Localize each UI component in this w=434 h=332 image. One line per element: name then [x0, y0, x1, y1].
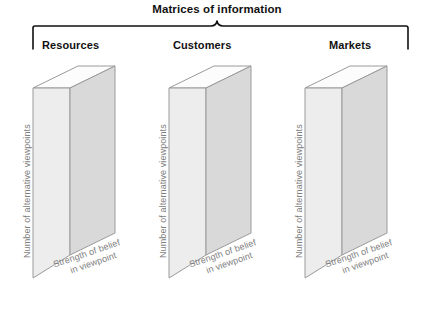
matrix-panel-resources: Number of alternative viewpoints Strengt… [14, 55, 154, 332]
column-header-resources: Resources [42, 39, 99, 51]
y-axis-label-resources: Number of alternative viewpoints [22, 124, 32, 258]
column-header-markets: Markets [329, 39, 371, 51]
matrix-panel-markets: Number of alternative viewpoints Strengt… [286, 55, 426, 332]
figure-title: Matrices of information [0, 3, 434, 15]
matrix-panel-customers: Number of alternative viewpoints Strengt… [150, 55, 290, 332]
column-header-customers: Customers [173, 39, 231, 51]
matrix-slab-3d-markets [286, 55, 426, 332]
y-axis-label-markets: Number of alternative viewpoints [294, 124, 304, 258]
figure-canvas: Matrices of information Resources Custom… [0, 0, 434, 332]
matrix-slab-3d-customers [150, 55, 290, 332]
y-axis-label-customers: Number of alternative viewpoints [158, 124, 168, 258]
matrix-slab-3d-resources [14, 55, 154, 332]
